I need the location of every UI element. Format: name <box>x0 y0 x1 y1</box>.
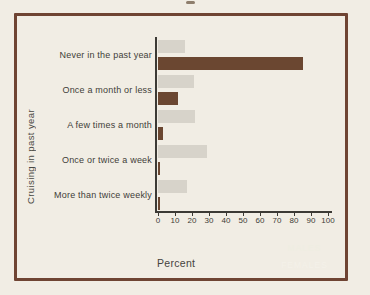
bar-males-2 <box>158 110 195 123</box>
x-axis-line <box>155 211 332 213</box>
bar-females-0 <box>158 57 303 70</box>
legend-females-swatch: FEMALES <box>272 258 337 272</box>
category-label: Once or twice a week <box>20 154 152 166</box>
bar-females-4 <box>158 197 160 210</box>
bar-males-3 <box>158 145 207 158</box>
x-axis-label: Percent <box>157 257 195 269</box>
y-axis-line <box>155 37 157 212</box>
bar-females-2 <box>158 127 163 140</box>
legend-males-label: MALES <box>288 243 322 253</box>
category-label: More than twice weekly <box>20 189 152 201</box>
scanned-chart-figure: Cruising in past year Never in the past … <box>0 0 370 295</box>
x-axis-tick-label: 100 <box>318 216 338 225</box>
category-label: Once a month or less <box>20 84 152 96</box>
category-label: Never in the past year <box>20 49 152 61</box>
bar-females-3 <box>158 162 160 175</box>
legend-males-swatch: MALES <box>272 241 337 255</box>
bar-males-1 <box>158 75 194 88</box>
scan-artifact <box>186 1 195 4</box>
bar-males-0 <box>158 40 185 53</box>
bar-males-4 <box>158 180 187 193</box>
legend-females-label: FEMALES <box>281 260 328 270</box>
category-label: A few times a month <box>20 119 152 131</box>
bar-females-1 <box>158 92 178 105</box>
